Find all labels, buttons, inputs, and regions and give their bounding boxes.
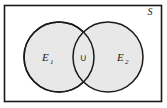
union-symbol: ∪	[80, 52, 87, 63]
sample-space-label: S	[148, 6, 153, 17]
event-label-e1-subscript: 1	[50, 58, 54, 66]
event-label-e2-subscript: 2	[125, 58, 129, 66]
event-label-e2-base: E	[116, 51, 124, 63]
event-label-e1-base: E	[41, 51, 49, 63]
venn-diagram-figure: S E 1 ∪ E 2	[0, 0, 167, 108]
venn-diagram-canvas: S E 1 ∪ E 2	[0, 0, 167, 108]
